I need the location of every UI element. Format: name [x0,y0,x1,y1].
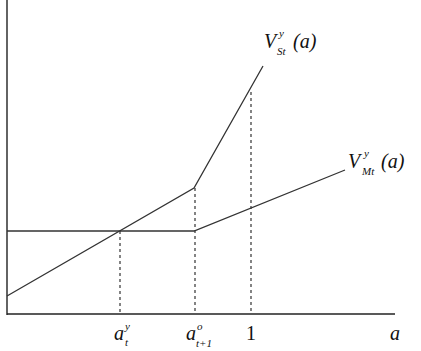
x-axis-label: a [390,322,400,344]
curve-v-st [7,66,263,296]
svg-text:t: t [125,336,129,348]
label-v-st: V y St (a) [264,27,317,57]
svg-text:a: a [114,322,124,344]
svg-text:1: 1 [246,322,256,344]
svg-text:V: V [348,150,363,172]
curve-v-mt [7,170,345,231]
svg-text:(a): (a) [293,30,317,53]
svg-text:Mt: Mt [361,165,375,177]
tick-label-one: 1 [246,322,256,344]
svg-text:o: o [197,320,203,332]
svg-text:y: y [363,147,369,159]
svg-text:y: y [278,27,284,39]
tick-label-a-t1-o: a o t+1 [186,320,212,349]
svg-text:St: St [277,45,287,57]
svg-text:a: a [186,322,196,344]
value-function-diagram: V y St (a) V y Mt (a) a y t a o t+1 1 a [0,0,421,351]
label-v-mt: V y Mt (a) [348,147,405,177]
svg-text:y: y [124,320,130,332]
svg-text:(a): (a) [381,150,405,173]
tick-label-a-t-y: a y t [114,320,130,348]
svg-text:t+1: t+1 [196,337,212,349]
